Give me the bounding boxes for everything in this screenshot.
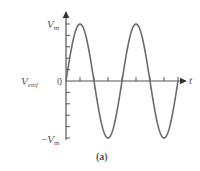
chart-svg: Vm 0 −Vm Vemf t (a) (0, 0, 200, 171)
y-axis-title: Vemf (21, 75, 39, 89)
sine-emf-figure: Vm 0 −Vm Vemf t (a) (0, 0, 200, 171)
y-top-label: Vm (47, 18, 60, 32)
y-zero-label: 0 (57, 76, 62, 87)
x-axis-title: t (189, 74, 193, 86)
y-bottom-label: −Vm (41, 133, 60, 147)
figure-caption: (a) (96, 151, 108, 163)
